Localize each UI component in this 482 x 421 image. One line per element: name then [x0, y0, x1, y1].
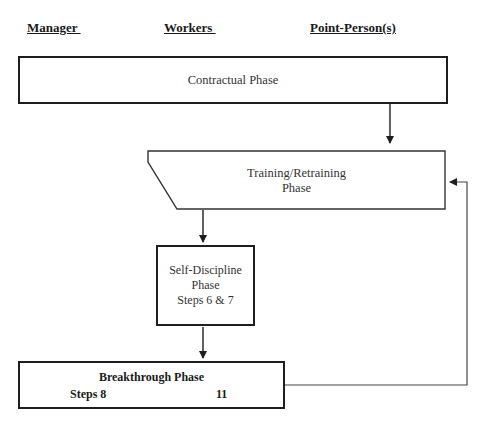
- breakthrough-steps-from: Steps 8: [70, 387, 106, 402]
- self-discipline-line3: Steps 6 & 7: [158, 293, 253, 308]
- self-discipline-line2: Phase: [158, 278, 253, 293]
- training-phase-label: Training/Retraining Phase: [148, 166, 445, 196]
- breakthrough-steps-to: 11: [216, 387, 227, 402]
- self-discipline-line1: Self-Discipline: [158, 263, 253, 278]
- feedback-loop-line: [285, 182, 467, 385]
- contractual-phase-box: Contractual Phase: [18, 56, 448, 104]
- contractual-phase-label: Contractual Phase: [20, 73, 446, 88]
- training-phase-line1: Training/Retraining: [148, 166, 445, 181]
- self-discipline-phase-label: Self-Discipline Phase Steps 6 & 7: [158, 263, 253, 308]
- training-phase-line2: Phase: [148, 181, 445, 196]
- breakthrough-phase-title: Breakthrough Phase: [18, 370, 285, 385]
- self-discipline-phase-box: Self-Discipline Phase Steps 6 & 7: [156, 245, 255, 326]
- breakthrough-phase-box: [18, 361, 285, 409]
